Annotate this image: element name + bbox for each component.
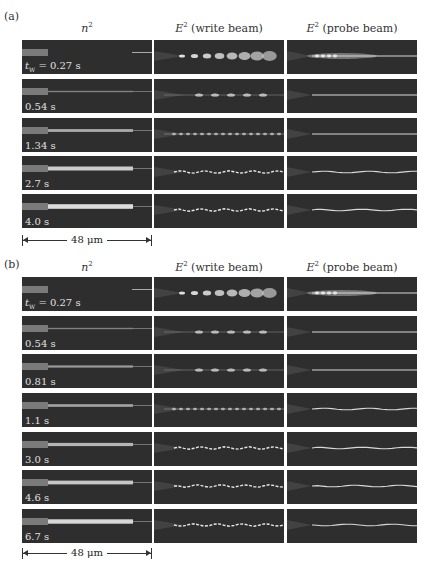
time-label: 0.54 s [25, 101, 56, 112]
write-beam-image [154, 316, 284, 350]
time-label: 1.34 s [25, 140, 56, 151]
probe-beam-canvas [287, 118, 417, 152]
scale-bar-tick-right [151, 235, 152, 246]
beam-cone [287, 520, 312, 530]
input-waveguide [22, 325, 48, 332]
beam-cone [287, 443, 312, 453]
intensity-spot [191, 291, 198, 295]
beam-cone [287, 481, 312, 491]
write-beam-canvas [154, 40, 284, 74]
write-beam-canvas [154, 194, 284, 228]
probe-trace [312, 408, 417, 410]
probe-trace [312, 171, 417, 173]
intensity-spot [262, 51, 276, 61]
n2-image: 0.81 s [22, 354, 152, 388]
column-title-n2: n2 [22, 260, 152, 274]
time-value: = 0.27 s [35, 297, 80, 308]
write-beam-image [154, 509, 284, 543]
scale-bar: 48 μm [22, 547, 152, 559]
n2-image: 2.7 s [22, 156, 152, 190]
probe-beam-image [287, 156, 417, 190]
write-beam-canvas [154, 118, 284, 152]
time-value: 4.6 s [25, 492, 49, 503]
input-waveguide [22, 363, 48, 370]
column-title-probe: E2 (probe beam) [287, 260, 417, 274]
time-value: 4.0 s [25, 216, 49, 227]
probe-beam-image [287, 118, 417, 152]
write-beam-canvas [154, 316, 284, 350]
probe-beam-canvas [287, 40, 417, 74]
probe-beam-canvas [287, 194, 417, 228]
arrow-left-icon [23, 237, 28, 243]
time-value: 1.1 s [25, 415, 49, 426]
input-waveguide [22, 286, 48, 293]
write-beam-canvas [154, 79, 284, 113]
written-channel [48, 91, 133, 92]
write-beam-image [154, 432, 284, 466]
column-title-n2: n2 [22, 21, 152, 35]
probe-beam-image [287, 277, 417, 311]
time-label: tW = 0.27 s [25, 297, 81, 310]
input-waveguide [22, 127, 48, 134]
probe-beam-image [287, 194, 417, 228]
time-label: 0.54 s [25, 338, 56, 349]
n2-image: 4.0 s [22, 194, 152, 228]
arrow-left-icon [23, 550, 28, 556]
column-title-rest: (write beam) [188, 22, 263, 35]
filament-trace [174, 524, 284, 526]
probe-beam-canvas [287, 156, 417, 190]
n2-image: 0.54 s [22, 79, 152, 113]
probe-beam-image [287, 470, 417, 504]
written-channel [48, 365, 133, 367]
probe-beam-image [287, 40, 417, 74]
probe-trace [312, 447, 417, 449]
write-beam-image [154, 156, 284, 190]
write-beam-canvas [154, 156, 284, 190]
written-channel [48, 328, 133, 329]
scale-bar: 48 μm [22, 234, 152, 246]
intensity-spot [227, 53, 238, 60]
beam-cone [154, 520, 184, 530]
write-beam-image [154, 277, 284, 311]
written-channel [48, 404, 133, 407]
n2-image: 4.6 s [22, 470, 152, 504]
n2-image: 0.54 s [22, 316, 152, 350]
time-label: 0.81 s [25, 376, 56, 387]
n2-image: 1.1 s [22, 393, 152, 427]
written-channel [48, 167, 133, 171]
column-title-rest: (probe beam) [319, 22, 398, 35]
column-title-rest: (probe beam) [319, 261, 398, 274]
intensity-spot [215, 290, 225, 296]
beam-cone [287, 327, 312, 337]
time-label: 3.0 s [25, 454, 49, 465]
probe-beam-canvas [287, 316, 417, 350]
probe-beam-canvas [287, 432, 417, 466]
time-label: 1.1 s [25, 415, 49, 426]
time-value: = 0.27 s [35, 60, 80, 71]
probe-beam-canvas [287, 354, 417, 388]
intensity-spot [262, 288, 276, 298]
probe-beam-image [287, 354, 417, 388]
intensity-spot [179, 292, 185, 295]
probe-trace [312, 209, 417, 211]
time-label: 4.0 s [25, 216, 49, 227]
column-title-probe: E2 (probe beam) [287, 21, 417, 35]
input-waveguide [22, 49, 48, 56]
column-title-rest: (write beam) [188, 261, 263, 274]
beam-cone [287, 205, 312, 215]
input-waveguide [22, 441, 48, 448]
column-title-sup: 2 [88, 260, 92, 268]
written-channel [48, 443, 133, 446]
input-waveguide [22, 518, 48, 525]
time-value: 0.54 s [25, 338, 56, 349]
probe-trace [312, 485, 417, 487]
beam-cone [154, 205, 184, 215]
beam-cone [154, 167, 184, 177]
n2-image: 6.7 s [22, 509, 152, 543]
probe-beam-canvas [287, 509, 417, 543]
arrow-right-icon [146, 550, 151, 556]
write-beam-canvas [154, 432, 284, 466]
n2-image: 1.34 s [22, 118, 152, 152]
write-beam-image [154, 194, 284, 228]
time-value: 6.7 s [25, 531, 49, 542]
